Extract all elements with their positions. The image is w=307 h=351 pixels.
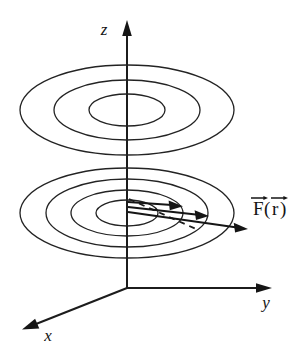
- field-label-argument-symbol: r: [272, 198, 279, 219]
- y-axis-label: y: [260, 293, 270, 312]
- figure-root: z y x: [0, 0, 307, 351]
- x-axis-label: x: [43, 326, 52, 345]
- field-label-close-paren: ): [280, 198, 286, 220]
- field-label-group: F ( r ): [251, 196, 288, 220]
- x-axis-line: [36, 288, 127, 324]
- z-axis-label: z: [100, 20, 108, 39]
- vector-field-diagram: z y x: [0, 0, 307, 351]
- axis-group: z y x: [22, 20, 272, 345]
- z-axis-arrowhead: [122, 20, 132, 36]
- y-axis-arrowhead: [256, 283, 272, 293]
- x-axis-arrowhead: [22, 319, 39, 330]
- field-vector-long-arrowhead: [234, 223, 248, 233]
- field-label-function-symbol: F: [253, 198, 264, 219]
- field-label-open-paren: (: [264, 198, 270, 220]
- field-vector-group: [128, 201, 248, 233]
